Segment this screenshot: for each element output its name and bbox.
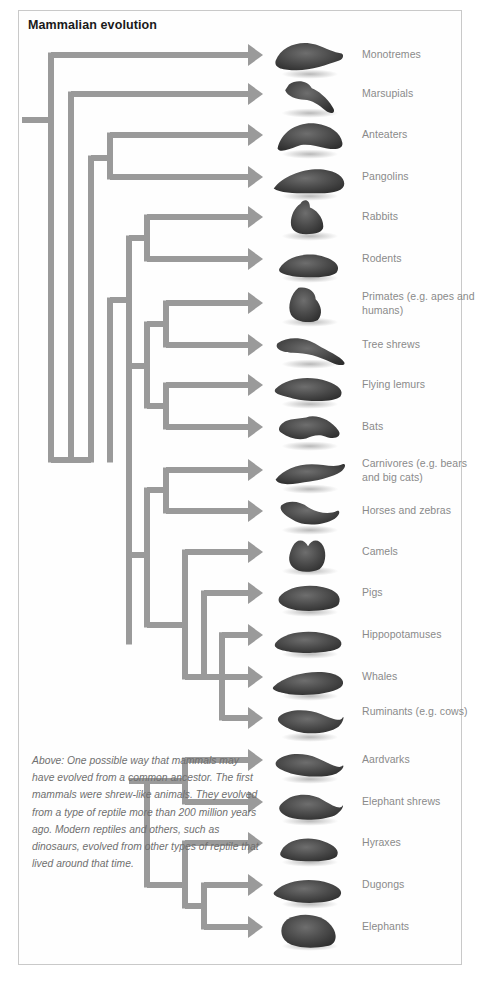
taxon-label: Whales [362, 670, 478, 684]
taxon-label: Hyraxes [362, 836, 478, 850]
taxon-label: Monotremes [362, 48, 478, 62]
taxon-label: Pangolins [362, 170, 478, 184]
taxon-label: Rodents [362, 252, 478, 266]
taxon-label: Aardvarks [362, 753, 478, 767]
taxon-label: Elephant shrews [362, 795, 478, 809]
taxon-label: Elephants [362, 920, 478, 934]
figure-caption: Above: One possible way that mammals may… [32, 752, 260, 872]
taxon-label: Dugongs [362, 878, 478, 892]
taxon-label: Horses and zebras [362, 504, 478, 518]
taxon-label: Primates (e.g. apes and humans) [362, 290, 478, 317]
taxon-label: Bats [362, 420, 478, 434]
taxon-label: Rabbits [362, 210, 478, 224]
taxon-label: Camels [362, 545, 478, 559]
taxon-label: Hippopotamuses [362, 628, 478, 642]
taxon-label: Pigs [362, 586, 478, 600]
taxon-label: Tree shrews [362, 338, 478, 352]
mammalian-evolution-figure: Mammalian evolution MonotremesMarsupials… [0, 0, 482, 988]
taxon-label: Carnivores (e.g. bears and big cats) [362, 457, 478, 484]
taxon-label: Flying lemurs [362, 378, 478, 392]
taxon-label: Marsupials [362, 87, 478, 101]
taxon-label: Anteaters [362, 128, 478, 142]
taxon-label: Ruminants (e.g. cows) [362, 705, 478, 719]
